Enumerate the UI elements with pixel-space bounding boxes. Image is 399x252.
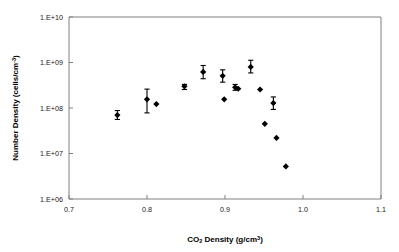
y-tick-label: 1.E+08 [40, 104, 63, 113]
y-axis-title: Number Density (cells/cm-3) [11, 55, 20, 161]
svg-text:Number Density (cells/cm-3): Number Density (cells/cm-3) [11, 55, 20, 161]
x-tick-label: 1.1 [376, 205, 386, 214]
svg-text:CO2 Density (g/cm3): CO2 Density (g/cm3) [187, 235, 263, 244]
x-tick-label: 0.8 [142, 205, 152, 214]
y-tick-label: 1.E+09 [40, 58, 63, 67]
x-tick-label: 0.9 [220, 205, 230, 214]
chart-figure: 0.70.80.91.01.1 1.E+061.E+071.E+081.E+09… [0, 0, 399, 252]
y-tick-label: 1.E+07 [40, 149, 63, 158]
y-tick-label: 1.E+06 [40, 195, 63, 204]
y-tick-label: 1.E+10 [40, 13, 63, 22]
x-axis-title: CO2 Density (g/cm3) [187, 235, 263, 244]
x-tick-label: 1.0 [298, 205, 308, 214]
x-tick-label: 0.7 [64, 205, 74, 214]
chart-background [0, 0, 399, 252]
